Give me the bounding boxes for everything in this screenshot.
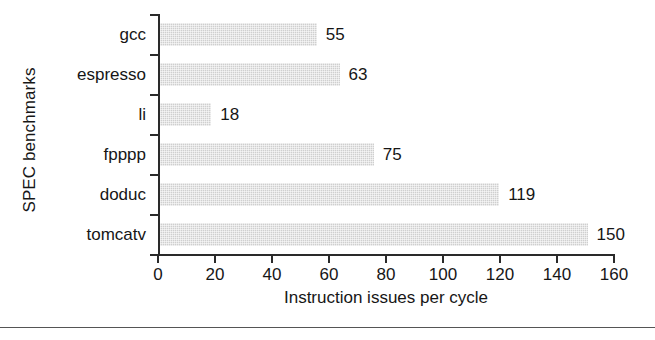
x-axis-tick-label: 0: [128, 266, 188, 283]
y-axis-tick: [150, 134, 159, 136]
y-axis-tick: [150, 214, 159, 216]
y-axis-tick: [150, 94, 159, 96]
bar-row: li18: [158, 103, 614, 126]
category-label-doduc: doduc: [0, 186, 146, 203]
x-axis-tick: [328, 254, 330, 263]
category-label-gcc: gcc: [0, 26, 146, 43]
bar-row: tomcatv150: [158, 223, 614, 246]
bar-row: fpppp75: [158, 143, 614, 166]
x-axis-tick-label: 160: [584, 266, 644, 283]
x-axis-title: Instruction issues per cycle: [158, 288, 614, 308]
bar-row: gcc55: [158, 23, 614, 46]
chart-figure: SPEC benchmarks 020406080100120140160gcc…: [0, 0, 655, 340]
category-label-li: li: [0, 106, 146, 123]
y-axis-title: SPEC benchmarks: [20, 20, 40, 260]
bar-espresso[interactable]: 63: [160, 63, 340, 86]
x-axis-tick: [271, 254, 273, 263]
bar-row: doduc119: [158, 183, 614, 206]
y-axis-tick: [150, 254, 159, 256]
category-label-fpppp: fpppp: [0, 146, 146, 163]
bottom-divider: [0, 327, 655, 328]
bar-li[interactable]: 18: [160, 103, 211, 126]
bar-tomcatv[interactable]: 150: [160, 223, 588, 246]
x-axis-tick-label: 140: [527, 266, 587, 283]
x-axis-tick: [385, 254, 387, 263]
x-axis-tick-label: 80: [356, 266, 416, 283]
x-axis-tick-label: 100: [413, 266, 473, 283]
x-axis-tick-label: 20: [185, 266, 245, 283]
y-axis-tick: [150, 174, 159, 176]
bar-value-label-doduc: 119: [508, 186, 535, 203]
x-axis-tick-label: 60: [299, 266, 359, 283]
x-axis-tick: [613, 254, 615, 263]
bar-value-label-espresso: 63: [349, 66, 368, 83]
x-axis-tick-label: 120: [470, 266, 530, 283]
y-axis-tick: [150, 54, 159, 56]
y-axis-tick: [150, 14, 159, 16]
bar-value-label-gcc: 55: [326, 26, 345, 43]
x-axis-tick: [556, 254, 558, 263]
bar-gcc[interactable]: 55: [160, 23, 317, 46]
bar-fpppp[interactable]: 75: [160, 143, 374, 166]
category-label-espresso: espresso: [0, 66, 146, 83]
bar-doduc[interactable]: 119: [160, 183, 499, 206]
x-axis-tick: [499, 254, 501, 263]
category-label-tomcatv: tomcatv: [0, 226, 146, 243]
x-axis-tick: [442, 254, 444, 263]
x-axis-tick-label: 40: [242, 266, 302, 283]
plot-area: 020406080100120140160gcc55espresso63li18…: [158, 14, 614, 254]
x-axis-tick: [214, 254, 216, 263]
bar-value-label-tomcatv: 150: [597, 226, 625, 243]
bar-value-label-li: 18: [220, 106, 239, 123]
bar-row: espresso63: [158, 63, 614, 86]
bar-value-label-fpppp: 75: [383, 146, 402, 163]
